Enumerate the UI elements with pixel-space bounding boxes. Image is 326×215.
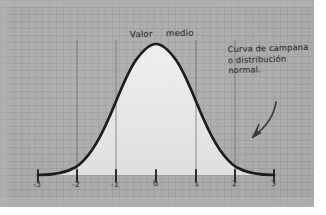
paper-margin-bottom bbox=[0, 197, 314, 207]
x-tick-label-3: 3 bbox=[271, 179, 277, 188]
chart-plot-area: -3 -2 -1 0 1 2 3 Valor medio Curva de ca… bbox=[14, 12, 298, 194]
page-edge-bottom bbox=[0, 207, 326, 215]
annotation-arrow-icon bbox=[252, 102, 276, 138]
mean-label-left: Valor bbox=[130, 29, 153, 40]
x-tick-label--3: -3 bbox=[33, 180, 41, 189]
distribution-note: Curva de campana o distribución normal. bbox=[228, 42, 313, 76]
x-tick-label--2: -2 bbox=[72, 180, 80, 189]
x-tick-label-2: 2 bbox=[232, 179, 238, 188]
screenshot-root: -3 -2 -1 0 1 2 3 Valor medio Curva de ca… bbox=[0, 0, 326, 215]
normal-distribution-figure bbox=[14, 12, 298, 194]
mean-label-right: medio bbox=[166, 28, 194, 39]
x-tick-label--1: -1 bbox=[111, 180, 119, 189]
paper-margin-top bbox=[0, 0, 314, 7]
page-edge-right bbox=[314, 0, 326, 215]
paper-margin-left bbox=[0, 0, 8, 207]
